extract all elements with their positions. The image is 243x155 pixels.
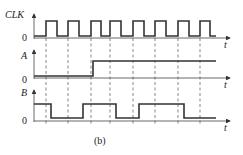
clk-waveform [34,21,216,36]
clk-signal: CLK 0 t [5,9,230,50]
b-waveform [34,104,216,118]
clk-t-label: t [224,39,227,50]
clk-zero-label: 0 [22,32,27,43]
a-t-label: t [224,79,227,90]
clock-edge-guides [46,38,200,124]
b-t-label: t [224,122,227,133]
figure-caption: (b) [94,135,106,147]
a-zero-label: 0 [22,74,27,85]
a-label: A [20,50,28,61]
timing-diagram: CLK 0 t A 0 t B 0 t (b) [0,0,243,155]
a-signal: A 0 t [20,50,230,90]
a-waveform [34,61,216,76]
b-label: B [21,87,27,98]
clk-label: CLK [5,9,25,20]
b-signal: B 0 t [21,87,230,133]
b-zero-label: 0 [22,115,27,126]
